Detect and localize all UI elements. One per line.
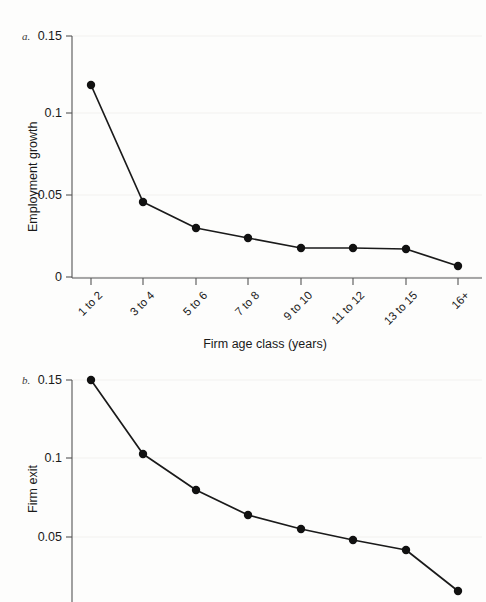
panel-a: a. Employment growth 0.15 0.1 0.05 0	[0, 0, 486, 360]
panel-b-plot	[0, 360, 486, 602]
panel-b: b. Firm exit 0.15 0.1 0.05	[0, 360, 486, 602]
panel-a-x-axis-title: Firm age class (years)	[135, 337, 395, 351]
figure-container: a. Employment growth 0.15 0.1 0.05 0	[0, 0, 486, 602]
